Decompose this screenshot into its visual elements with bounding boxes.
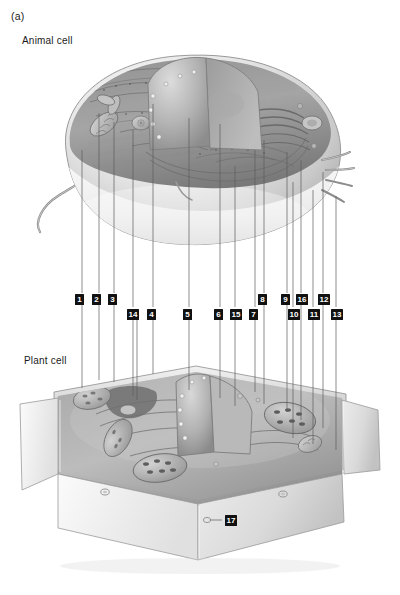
panel-letter: (a) <box>11 10 24 22</box>
label-badge-12: 12 <box>318 294 330 305</box>
animal-cell-illustration <box>38 50 360 262</box>
label-badge-8: 8 <box>258 294 267 305</box>
label-badge-10: 10 <box>288 309 300 320</box>
label-badge-3: 3 <box>108 294 117 305</box>
mitochondrion <box>77 63 99 79</box>
animal-cell-caption: Animal cell <box>22 35 73 46</box>
label-badge-7: 7 <box>249 309 258 320</box>
cell-diagram-artwork <box>0 0 400 595</box>
label-badge-14: 14 <box>127 309 139 320</box>
label-badge-6: 6 <box>214 309 223 320</box>
plant-cell-caption: Plant cell <box>24 355 67 366</box>
label-badge-15: 15 <box>230 309 242 320</box>
label-badge-5: 5 <box>183 309 192 320</box>
cell-wall-right <box>342 400 380 474</box>
plant-cell-illustration <box>20 366 380 574</box>
label-badge-11: 11 <box>308 309 320 320</box>
label-badge-17: 17 <box>225 515 237 526</box>
cell-wall-left <box>20 398 58 490</box>
figure-container: (a) Animal cell Plant cell 1238916121445… <box>0 0 400 595</box>
label-badge-9: 9 <box>281 294 290 305</box>
label-badge-4: 4 <box>147 309 156 320</box>
label-badge-16: 16 <box>296 294 308 305</box>
label-badge-1: 1 <box>75 294 84 305</box>
label-badge-2: 2 <box>92 294 101 305</box>
label-badge-13: 13 <box>331 309 343 320</box>
